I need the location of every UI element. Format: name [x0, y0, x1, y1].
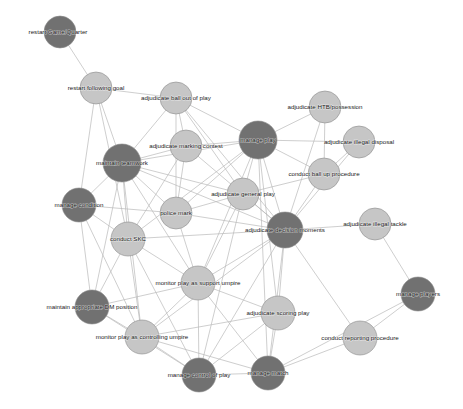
network-graph-canvas: restart Game/Quarterrestart following go… — [0, 0, 463, 409]
network-graph-svg: restart Game/Quarterrestart following go… — [0, 0, 463, 409]
graph-node-label: adjudicate decision moments — [245, 226, 325, 233]
graph-node-label: restart following goal — [68, 84, 125, 91]
graph-edge — [258, 140, 268, 373]
graph-node-label: manage control of play — [168, 371, 232, 378]
graph-node-label: manage match — [248, 369, 289, 376]
graph-node-label: conduct ball up procedure — [288, 170, 360, 177]
graph-node-label: conduct SKC — [110, 235, 147, 242]
graph-node-label: maintain teamwork — [96, 159, 149, 166]
graph-node-label: restart Game/Quarter — [29, 28, 88, 35]
graph-node-label: maintain appropriate DM position — [47, 303, 138, 310]
graph-node-label: monitor play as controlling umpire — [96, 333, 189, 340]
graph-node-label: adjudicate illegal disposal — [324, 138, 394, 145]
graph-node-label: adjudicate illegal tackle — [343, 220, 407, 227]
graph-node-label: conduct reporting procedure — [321, 334, 399, 341]
graph-node-label: police mark — [160, 209, 193, 216]
graph-node-label: adjudicate scoring play — [247, 309, 311, 316]
graph-node-label: adjudicate marking contest — [149, 142, 223, 149]
graph-node-label: adjudicate general play — [211, 190, 276, 197]
graph-edge — [285, 230, 360, 338]
graph-node-label: manage players — [396, 290, 440, 297]
graph-edge — [176, 98, 285, 230]
graph-node-label: adjudicate HTB/possession — [288, 103, 364, 110]
graph-node-label: monitor play as support umpire — [156, 279, 242, 286]
graph-node-label: manage condition — [55, 201, 104, 208]
graph-node-label: adjudicate ball out of play — [141, 94, 212, 101]
graph-node-label: manage play — [240, 136, 276, 143]
graph-edge — [79, 88, 96, 205]
